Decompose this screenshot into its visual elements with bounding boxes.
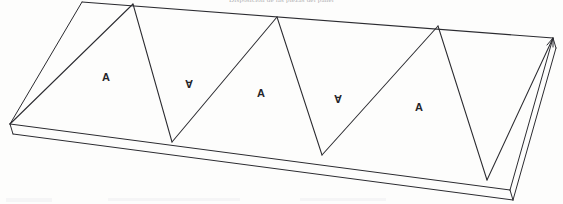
seam-segment-5 — [322, 26, 438, 155]
panel-label-2: A — [185, 78, 193, 90]
panel-label-5: A — [415, 101, 423, 113]
slab-left-edge — [10, 2, 82, 124]
slab-front-top-edge — [10, 124, 510, 190]
slab-left-thickness-tick — [10, 124, 13, 134]
seam-segment-7 — [487, 38, 553, 180]
panel-label-3: A — [257, 87, 265, 99]
slab-front-bottom-edge — [13, 134, 513, 200]
seam-segment-6 — [438, 26, 487, 180]
panel-label-1: A — [102, 71, 110, 83]
seam-segment-4 — [277, 17, 322, 155]
zigzag-panel-diagram — [0, 0, 563, 204]
slab-thickness — [10, 38, 556, 200]
zigzag-seam — [10, 4, 553, 180]
seam-segment-1 — [10, 4, 133, 124]
slab-right-corner-tick — [510, 190, 513, 200]
figure-root: Disposición de las piezas del panel — [0, 0, 563, 204]
slab-right-edge — [510, 38, 553, 190]
slab-right-bottom-edge — [513, 48, 556, 200]
panel-label-4: A — [334, 93, 342, 105]
slab-back-edge — [82, 2, 553, 38]
seam-segment-2 — [133, 4, 172, 142]
